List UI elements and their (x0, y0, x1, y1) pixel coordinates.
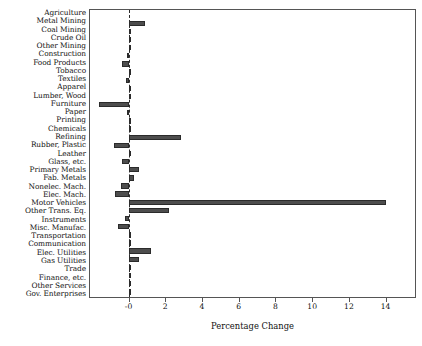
bar-row (90, 92, 415, 100)
bar-row (90, 101, 415, 109)
bar (129, 273, 131, 278)
bar-row (90, 255, 415, 263)
bar (129, 37, 131, 42)
bar (122, 159, 128, 164)
bar (129, 175, 135, 180)
bar-row (90, 198, 415, 206)
x-axis-tick-label: 10 (307, 302, 317, 311)
bar-row (90, 68, 415, 76)
x-axis-tick-label: 14 (381, 302, 391, 311)
x-axis-tick-label: 6 (236, 302, 241, 311)
bar-row (90, 52, 415, 60)
bar-row (90, 76, 415, 84)
value-axis: -02468101214 (89, 298, 416, 320)
bar-row (90, 280, 415, 288)
bar (118, 224, 128, 229)
bar (129, 289, 131, 294)
bar (129, 257, 139, 262)
bar (129, 208, 170, 213)
bar (115, 191, 129, 196)
bar-row (90, 19, 415, 27)
bar-row (90, 125, 415, 133)
bar (125, 216, 129, 221)
x-axis-tick-label: 8 (273, 302, 278, 311)
x-axis-title: Percentage Change (89, 321, 416, 331)
x-axis-tick-label: -0 (125, 302, 132, 311)
bar-row (90, 11, 415, 19)
plot-area (89, 9, 416, 298)
bar (129, 94, 131, 99)
bar (129, 118, 131, 123)
bar (129, 45, 131, 50)
bar-row (90, 141, 415, 149)
bar-row (90, 288, 415, 296)
bar-row (90, 166, 415, 174)
bar-row (90, 231, 415, 239)
bar (129, 151, 131, 156)
bar (129, 232, 131, 237)
bar (121, 183, 129, 188)
category-axis-labels: AgricultureMetal MiningCoal MiningCrude … (0, 9, 88, 298)
bar-row (90, 239, 415, 247)
category-label: Gov. Enterprises (26, 290, 88, 298)
bar-row (90, 133, 415, 141)
x-axis-tick-label: 4 (200, 302, 205, 311)
bar (129, 86, 131, 91)
bar-row (90, 223, 415, 231)
bar-series (90, 10, 415, 297)
bar-row (90, 247, 415, 255)
bar-row (90, 263, 415, 271)
bar-row (90, 27, 415, 35)
bar (129, 167, 139, 172)
bar (114, 143, 128, 148)
bar-row (90, 158, 415, 166)
bar (99, 102, 129, 107)
bar (129, 265, 131, 270)
bar-row (90, 117, 415, 125)
bar (129, 69, 131, 74)
bar-row (90, 215, 415, 223)
bar (129, 281, 131, 286)
bar (127, 110, 129, 115)
bar-row (90, 35, 415, 43)
bar (129, 135, 182, 140)
bar (126, 78, 129, 83)
bar-row (90, 60, 415, 68)
bar (129, 29, 131, 34)
bar-row (90, 84, 415, 92)
bar (129, 200, 386, 205)
bar-row (90, 174, 415, 182)
bar-row (90, 109, 415, 117)
bar (127, 53, 129, 58)
bar (129, 21, 146, 26)
bar-row (90, 190, 415, 198)
bar-row (90, 149, 415, 157)
bar (129, 126, 131, 131)
x-axis-tick-label: 2 (163, 302, 168, 311)
bar-row (90, 44, 415, 52)
x-axis-tick-label: 12 (344, 302, 354, 311)
bar-row (90, 182, 415, 190)
bar (122, 61, 129, 66)
bar (129, 240, 132, 245)
bar-chart-figure: AgricultureMetal MiningCoal MiningCrude … (0, 0, 422, 346)
bar-row (90, 272, 415, 280)
bar (129, 248, 151, 253)
bar-row (90, 206, 415, 214)
